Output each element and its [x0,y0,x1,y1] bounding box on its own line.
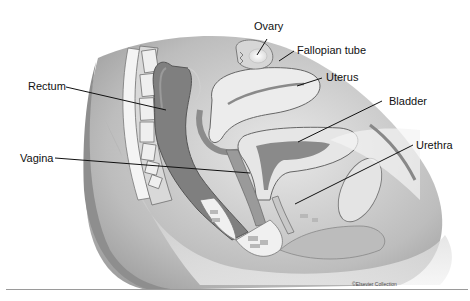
label-fallopian-tube: Fallopian tube [297,45,366,56]
label-bladder: Bladder [389,96,427,107]
label-vagina: Vagina [20,153,53,164]
label-rectum: Rectum [28,81,66,92]
bottom-divider [6,289,468,290]
anatomy-illustration [0,0,470,301]
credit-text: ©Elsevier Collection [352,281,397,287]
label-ovary: Ovary [254,21,283,32]
label-urethra: Urethra [416,140,453,151]
label-uterus: Uterus [326,72,358,83]
